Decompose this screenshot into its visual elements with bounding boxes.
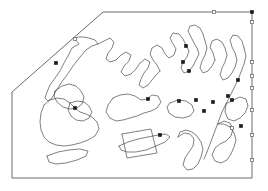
region-outline-group (40, 25, 248, 170)
vertex-northwest-mid[interactable] (54, 61, 57, 64)
eastern-island-a (225, 97, 248, 121)
map-canvas (0, 0, 268, 191)
south-wedge-strip (119, 134, 170, 152)
vertex-north-central[interactable] (184, 44, 187, 47)
vertex-right-edge-5[interactable] (250, 108, 253, 111)
vertex-right-edge-6[interactable] (250, 133, 253, 136)
vertex-mid-node-c[interactable] (202, 109, 205, 112)
vertex-right-edge-1[interactable] (250, 20, 253, 23)
vertex-northwest-apex[interactable] (73, 37, 76, 40)
vertex-central-lagoon-north[interactable] (146, 97, 149, 100)
central-lagoon (106, 94, 161, 121)
vertex-southeast-node[interactable] (230, 126, 233, 129)
north-central-inlet (98, 38, 160, 88)
vector-map-drawing (0, 0, 268, 191)
vertex-top-edge-open[interactable] (212, 10, 215, 13)
vertex-right-edge-4[interactable] (250, 86, 253, 89)
northwest-peninsula (45, 37, 98, 101)
southeast-valley (178, 130, 203, 170)
west-lake-small (68, 101, 92, 121)
south-quadrangle (122, 129, 157, 158)
vertex-east-node-a[interactable] (236, 78, 239, 81)
vertex-southeast-edge[interactable] (250, 158, 253, 161)
vertex-east-node-c[interactable] (211, 100, 214, 103)
southwest-strip (47, 149, 88, 164)
vertex-mid-node-b[interactable] (194, 98, 197, 101)
vertex-east-node-d[interactable] (230, 98, 233, 101)
vertex-right-edge-2[interactable] (250, 60, 253, 63)
vertex-central-junction[interactable] (187, 69, 190, 72)
northeast-ridge (210, 35, 244, 80)
vertex-right-edge-3[interactable] (250, 74, 253, 77)
vertex-north-central-lower[interactable] (181, 60, 184, 63)
vertex-southeast-node-b[interactable] (239, 124, 242, 127)
vertex-marker-group (54, 10, 253, 161)
east-coast-arc (204, 48, 246, 159)
vertex-east-node-b[interactable] (226, 94, 229, 97)
vertex-top-right-corner[interactable] (250, 10, 253, 13)
vertex-mid-node-a[interactable] (177, 99, 180, 102)
vertex-south-strip-node[interactable] (158, 133, 161, 136)
vertex-west-lake-node[interactable] (73, 106, 76, 109)
central-highland (150, 25, 215, 73)
